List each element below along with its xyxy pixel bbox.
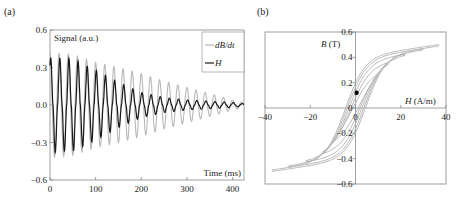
panel-b: −40−20020400.60.40.20−0.2−0.4−0.6 B (T) … (258, 27, 451, 189)
panel-b-xlabel: H (A/m) (404, 96, 436, 106)
y-tick-label: 0.0 (36, 100, 48, 110)
y-tick-label: −0.6 (31, 175, 48, 185)
x-tick-label: 40 (442, 112, 452, 122)
x-tick-label: 100 (89, 184, 103, 194)
x-tick-label: 20 (396, 112, 406, 122)
y-tick-label: −0.4 (336, 154, 353, 164)
panel-a-xlabel: Time (ms) (204, 168, 241, 178)
x-tick-label: −40 (258, 112, 273, 122)
x-tick-label: 0 (48, 184, 53, 194)
y-tick-label: 0.6 (36, 25, 48, 35)
legend-label-h: H (214, 58, 222, 68)
x-tick-label: 400 (226, 184, 240, 194)
y-tick-label: 0.6 (341, 27, 353, 37)
x-tick-label: 0 (353, 112, 358, 122)
x-tick-label: 200 (135, 184, 149, 194)
x-tick-label: −20 (303, 112, 318, 122)
y-tick-label: 0.2 (341, 78, 352, 88)
panel-a: 01002003004000.60.30.0−0.3−0.6 Signal (a… (31, 25, 244, 194)
panel-a-ylabel: Signal (a.u.) (54, 33, 98, 43)
y-tick-label: −0.2 (336, 128, 352, 138)
panel-a-label: (a) (4, 6, 15, 18)
panel-b-xlabel-unit: (A/m) (412, 96, 436, 106)
figure: (a) 01002003004000.60.30.0−0.3−0.6 Signa… (0, 0, 473, 208)
panel-b-label: (b) (257, 6, 269, 18)
y-tick-label: 0.4 (341, 52, 353, 62)
legend-box (202, 32, 244, 72)
y-tick-label: 0 (348, 103, 353, 113)
y-tick-label: 0.3 (36, 63, 48, 73)
y-tick-label: −0.3 (31, 138, 48, 148)
legend-label-dbdt: dB/dt (215, 40, 235, 50)
x-tick-label: 300 (180, 184, 194, 194)
marker-point (354, 91, 358, 95)
panel-b-ylabel: B (T) (321, 39, 340, 49)
y-tick-label: −0.6 (336, 179, 353, 189)
legend: dB/dt H (202, 32, 244, 72)
panel-b-ylabel-unit: (T) (327, 39, 341, 49)
